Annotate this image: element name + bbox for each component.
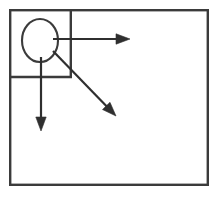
arrow-right-head (116, 34, 130, 44)
diagram-figure (0, 0, 215, 199)
diagram-canvas (0, 0, 215, 199)
arrow-diagonal-shaft (53, 51, 110, 110)
arrow-diagonal (53, 51, 116, 116)
arrow-right (53, 34, 130, 44)
arrow-down-head (36, 117, 46, 131)
arrow-down (36, 57, 46, 131)
ellipse-node (22, 19, 58, 62)
outer-boundary-rectangle (10, 10, 208, 185)
